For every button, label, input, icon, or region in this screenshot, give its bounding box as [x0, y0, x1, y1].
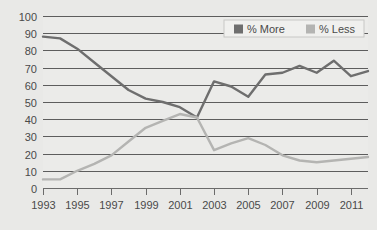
- y-axis-tick-label: 90: [25, 28, 37, 40]
- y-axis-tick-label: 20: [25, 149, 37, 161]
- line-chart: 1009080706050403020100 19931995199719992…: [0, 0, 377, 230]
- y-axis-tick-label: 0: [31, 183, 37, 195]
- x-axis-tick-label: 1999: [134, 199, 158, 211]
- y-axis-tick-label: 10: [25, 166, 37, 178]
- x-axis-tick-label: 2009: [305, 199, 329, 211]
- x-axis-tick-label: 2001: [168, 199, 192, 211]
- chart-legend: % More% Less: [224, 20, 364, 37]
- x-axis-tick-label: 2003: [202, 199, 226, 211]
- x-axis-tick-label: 2011: [340, 199, 364, 211]
- x-axis-tick-label: 1997: [99, 199, 123, 211]
- y-axis-tick-label: 70: [25, 63, 37, 75]
- y-axis-tick-label: 40: [25, 114, 37, 126]
- y-axis-tick-label: 50: [25, 97, 37, 109]
- x-axis-tick-label: 1995: [65, 199, 89, 211]
- legend-label-less: % Less: [319, 23, 356, 35]
- x-axis-tick-label: 1993: [31, 199, 55, 211]
- legend-swatch-less: [306, 25, 315, 34]
- x-axis-tick-label: 2007: [270, 199, 294, 211]
- chart-container: 1009080706050403020100 19931995199719992…: [0, 0, 377, 230]
- y-axis-tick-label: 80: [25, 45, 37, 57]
- legend-label-more: % More: [247, 23, 285, 35]
- y-axis-tick-label: 100: [19, 11, 37, 23]
- y-axis-tick-label: 60: [25, 80, 37, 92]
- y-axis-tick-label: 30: [25, 131, 37, 143]
- legend-swatch-more: [234, 25, 243, 34]
- x-axis-tick-label: 2005: [236, 199, 260, 211]
